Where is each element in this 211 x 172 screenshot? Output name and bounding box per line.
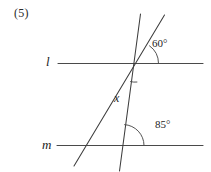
line-l-label: l (46, 56, 50, 68)
angle-arc-x (130, 82, 137, 83)
angle-60-label: 60° (152, 38, 167, 49)
angle-arc-85 (124, 125, 144, 146)
angle-x-label: x (114, 92, 119, 104)
geometry-figure: (5) l m x 60° 85° (0, 0, 211, 172)
angle-85-label: 85° (155, 119, 170, 130)
transversal-right-stroke (120, 14, 141, 171)
geometry-drawing-canvas (0, 0, 211, 172)
line-m-label: m (42, 139, 51, 151)
transversal-left-stroke (74, 15, 165, 166)
